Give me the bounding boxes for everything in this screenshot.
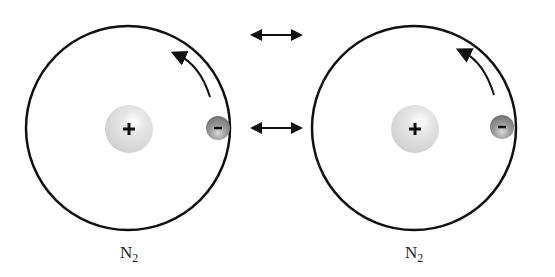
label-element: N (405, 243, 417, 262)
molecule-right (312, 26, 516, 230)
molecule-left (26, 26, 230, 230)
molecule-label-left: N2 (120, 243, 138, 266)
label-element: N (120, 243, 132, 262)
molecule-label-right: N2 (405, 243, 423, 266)
double-arrow-top-icon (250, 29, 303, 41)
double-arrow-middle-icon (250, 122, 303, 134)
label-subscript: 2 (417, 251, 423, 265)
diagram-canvas (0, 0, 555, 277)
label-subscript: 2 (132, 251, 138, 265)
